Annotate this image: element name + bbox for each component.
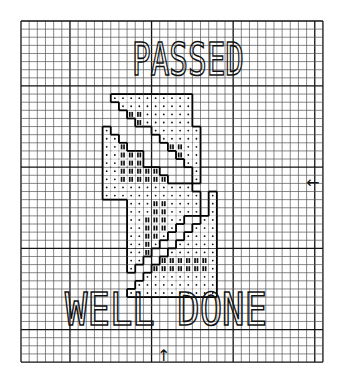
subtitle-well-done: WELL DONE — [65, 284, 267, 335]
title-passed: PASSED — [132, 34, 244, 85]
cross-stitch-pattern: PASSED WELL DONE — [0, 0, 343, 387]
center-arrow-left-icon: ← — [306, 175, 319, 191]
center-arrow-up-icon: ↑ — [157, 348, 170, 364]
